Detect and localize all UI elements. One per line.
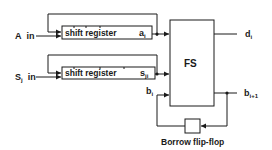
borrow-flip-flop-label: Borrow flip-flop (161, 137, 224, 147)
diagram-wires (0, 0, 272, 150)
shift-register-a-label: shift register (65, 28, 117, 38)
borrow-in-label: bi (146, 86, 153, 99)
shift-register-s-label: shift register (65, 68, 117, 78)
borrow-out-sub: i+1 (250, 93, 259, 99)
input-a-name: A (15, 31, 22, 41)
difference-output-label: di (245, 29, 252, 42)
borrow-flip-flop (185, 119, 200, 133)
borrow-in-sub: i (152, 91, 154, 97)
full-subtractor-label: FS (184, 59, 197, 69)
output-a-sub: i (144, 33, 146, 39)
input-a-suffix: in (27, 31, 35, 41)
shift-register-s-output: sji (140, 68, 148, 81)
input-s-label: Sj in (15, 72, 36, 85)
input-a-label: A in (15, 31, 35, 41)
difference-sub: i (251, 34, 253, 40)
shift-register-a-output: ai (139, 28, 146, 41)
input-s-suffix: in (28, 72, 36, 82)
input-s-sub: j (21, 77, 23, 83)
borrow-out-label: bi+1 (244, 88, 258, 101)
output-s-sub: ji (145, 73, 148, 79)
